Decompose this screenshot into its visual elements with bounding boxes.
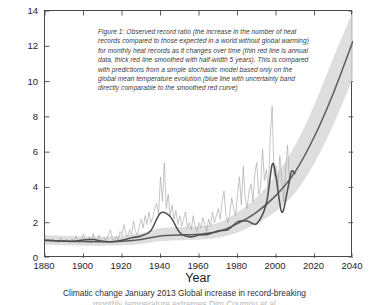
y-tick-label: 10 xyxy=(0,76,38,87)
figure-caption-inset: Figure 1: Observed record ratio (the inc… xyxy=(98,27,311,93)
y-tick-label: 12 xyxy=(0,40,38,51)
y-tick-label: 14 xyxy=(0,5,38,16)
y-tick-label: 8 xyxy=(0,111,38,122)
source-caption: Climatic change January 2013 Global incr… xyxy=(0,288,369,298)
y-tick-label: 6 xyxy=(0,146,38,157)
figure-container: Ratio of Extremes 02468101214 1880190019… xyxy=(0,0,369,305)
plot-area: Figure 1: Observed record ratio (the inc… xyxy=(44,10,352,257)
y-tick-label: 2 xyxy=(0,217,38,228)
x-tick-label: 2040 xyxy=(329,260,369,271)
source-caption-cutoff: monthly temperature extremes Dim Coumou … xyxy=(0,299,369,305)
x-axis-title: Year xyxy=(44,271,352,285)
y-tick-label: 4 xyxy=(0,181,38,192)
